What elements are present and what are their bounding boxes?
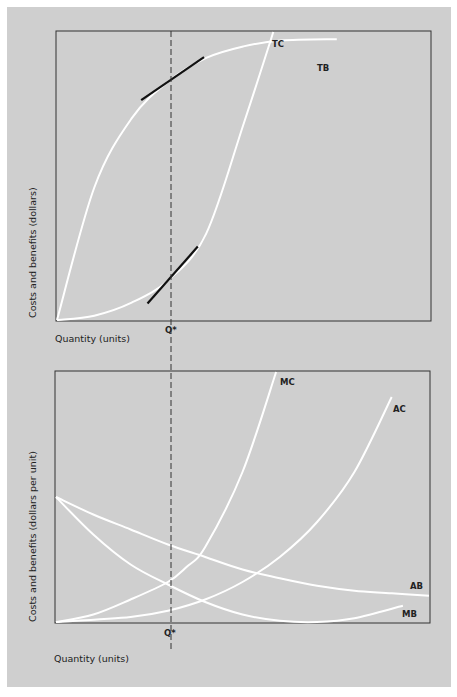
label-ab: AB <box>410 581 423 591</box>
per-unit-chart: MCACABMB Quantity (units) Costs and bene… <box>27 371 430 664</box>
label-mc: MC <box>280 377 295 387</box>
tangent-tc <box>148 247 198 304</box>
label-ac: AC <box>393 404 406 414</box>
label-mb: MB <box>402 609 417 619</box>
curve-tc <box>57 32 273 320</box>
bottom-plot-frame <box>55 371 430 623</box>
tangent-tb <box>141 57 204 100</box>
top-y-axis-label: Costs and benefits (dollars) <box>27 187 38 318</box>
bottom-qstar-label: Q* <box>164 628 176 638</box>
curve-tb <box>57 39 337 320</box>
curve-ac <box>56 397 392 622</box>
label-tc: TC <box>272 39 284 49</box>
total-chart: TBTC Quantity (units) Costs and benefits… <box>27 31 431 344</box>
figure: TBTC Quantity (units) Costs and benefits… <box>0 0 457 697</box>
curve-mb <box>56 497 403 622</box>
bottom-y-axis-label: Costs and benefits (dollars per unit) <box>27 451 38 622</box>
label-tb: TB <box>317 63 329 73</box>
top-x-axis-label: Quantity (units) <box>55 333 130 344</box>
bottom-x-axis-label: Quantity (units) <box>54 653 129 664</box>
top-plot-frame <box>56 31 431 321</box>
